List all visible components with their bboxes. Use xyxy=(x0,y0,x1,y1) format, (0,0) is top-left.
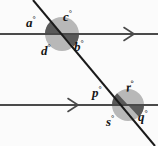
angle-label-p: p° xyxy=(92,86,102,99)
geometry-diagram xyxy=(0,0,158,146)
angle-label-c: c° xyxy=(63,10,72,23)
angle-label-d: d° xyxy=(41,44,51,57)
angle-label-r: r° xyxy=(125,80,135,94)
transversal-line xyxy=(33,0,155,146)
angle-label-q: q° xyxy=(138,110,148,123)
angle-label-a: a° xyxy=(26,16,36,29)
angle-label-b: b° xyxy=(74,40,84,53)
geometry-figure: a° c° d° b° p° r° s° q° xyxy=(0,0,158,146)
angle-label-s: s° xyxy=(106,115,114,128)
